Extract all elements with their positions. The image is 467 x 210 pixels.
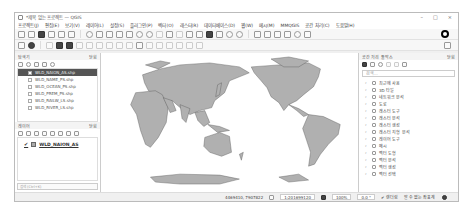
- refresh-browser-icon[interactable]: [26, 62, 31, 67]
- menu-project[interactable]: 프로젝트(J): [18, 22, 39, 28]
- add-selected-icon[interactable]: [18, 62, 23, 67]
- browser-panel-close[interactable]: 닫힘: [89, 54, 97, 60]
- filter-expression-icon[interactable]: [50, 131, 55, 136]
- filter-icon[interactable]: [34, 62, 39, 67]
- add-line-icon[interactable]: [46, 42, 53, 49]
- pan-to-selection-icon[interactable]: [96, 31, 103, 38]
- pan-hand-icon[interactable]: [86, 31, 93, 38]
- processing-item-vector-analysis[interactable]: ›벡터 분석: [359, 156, 458, 163]
- digitize-4-icon[interactable]: [116, 42, 123, 49]
- user-plugin-circle-icon[interactable]: [441, 30, 449, 38]
- zoom-in-icon[interactable]: [106, 31, 113, 38]
- open-attribute-table-icon[interactable]: [264, 31, 271, 38]
- processing-item-vector-creation[interactable]: ›벡터 생성: [359, 163, 458, 170]
- save-as-icon[interactable]: [48, 31, 55, 38]
- processing-item-recent[interactable]: ›최근에 사용: [359, 79, 458, 86]
- browser-item-wld-ocean-ps[interactable]: WLD_OCEAN_PS.shp: [18, 83, 97, 90]
- processing-item-vector-selection[interactable]: ›벡터 선택: [359, 170, 458, 177]
- add-group-icon[interactable]: [26, 131, 31, 136]
- menu-database[interactable]: 데이터베이스(D): [204, 22, 235, 28]
- processing-item-3d-tiles[interactable]: ›3D 타일: [359, 86, 458, 93]
- menu-settings[interactable]: 설정(S): [110, 22, 124, 28]
- zoom-next-icon[interactable]: [176, 31, 183, 38]
- panel-toggle-icon[interactable]: [444, 42, 451, 49]
- new-map-view-icon[interactable]: [186, 31, 193, 38]
- label-tool-icon[interactable]: [136, 42, 143, 49]
- new-project-icon[interactable]: [18, 31, 25, 38]
- add-point-icon[interactable]: [56, 42, 63, 49]
- bookmark-icon[interactable]: [206, 31, 213, 38]
- processing-item-layer-tools[interactable]: ›레이어 도구: [359, 135, 458, 142]
- locator-search-input[interactable]: 검색 (Ctrl+K): [17, 183, 98, 190]
- menu-layer[interactable]: 레이어(L): [86, 22, 104, 28]
- collapse-all-icon[interactable]: [42, 62, 47, 67]
- statistics-icon[interactable]: [304, 31, 311, 38]
- lock-scale-icon[interactable]: [321, 195, 326, 200]
- processing-item-vector-geometry[interactable]: ›벡터 도형: [359, 149, 458, 156]
- magnifier-spinbox[interactable]: 100%: [332, 194, 351, 200]
- map-canvas[interactable]: [101, 53, 358, 192]
- menu-raster[interactable]: 래스터(R): [180, 22, 199, 28]
- render-checkbox[interactable]: ✔ 렌더링: [381, 194, 398, 200]
- browser-item-wld-river-ls[interactable]: WLD_RIVER_LS.shp: [18, 104, 97, 111]
- processing-item-raster-creation[interactable]: ›래스터 생성: [359, 121, 458, 128]
- zoom-layer-icon[interactable]: [146, 31, 153, 38]
- menu-vector[interactable]: 벡터(O): [158, 22, 173, 28]
- messages-icon[interactable]: [442, 195, 447, 200]
- digitize-1-icon[interactable]: [86, 42, 93, 49]
- crs-button[interactable]: 알 수 없는 좌표계: [404, 194, 436, 200]
- properties-icon[interactable]: [50, 62, 55, 67]
- visibility-icon[interactable]: [34, 131, 39, 136]
- filter-legend-icon[interactable]: [42, 131, 47, 136]
- digitize-3-icon[interactable]: [106, 42, 113, 49]
- menu-web[interactable]: 웹(W): [241, 22, 253, 28]
- digitize-2-icon[interactable]: [96, 42, 103, 49]
- zoom-last-icon[interactable]: [156, 31, 163, 38]
- style-manager-icon[interactable]: [68, 31, 75, 38]
- select-features-icon[interactable]: [274, 31, 281, 38]
- processing-item-network-analysis[interactable]: ›네트워크 분석: [359, 93, 458, 100]
- menu-view[interactable]: 보기(V): [65, 22, 80, 28]
- rotation-spinbox[interactable]: 0.0 °: [357, 194, 375, 200]
- menu-processing[interactable]: 공간 처리(C): [305, 22, 329, 28]
- minimize-button[interactable]: –: [421, 14, 424, 20]
- processing-item-raster-terrain[interactable]: ›래스터 지형 분석: [359, 128, 458, 135]
- remove-layer-icon[interactable]: [74, 131, 79, 136]
- print-layout-icon[interactable]: [58, 31, 65, 38]
- identify-features-icon[interactable]: [254, 31, 261, 38]
- expand-all-icon[interactable]: [58, 131, 63, 136]
- close-button[interactable]: ×: [448, 14, 452, 20]
- browser-item-wld-railw-ls[interactable]: WLD_RAILW_LS.shp: [18, 97, 97, 104]
- maximize-button[interactable]: □: [433, 14, 438, 20]
- edit-line-icon[interactable]: [156, 42, 163, 49]
- open-project-icon[interactable]: [28, 31, 35, 38]
- zoom-native-icon[interactable]: [166, 31, 173, 38]
- layer-item-wld-naion-as[interactable]: ✔ WLD_NAION_AS: [18, 138, 97, 150]
- edit-pencil-icon[interactable]: [146, 42, 153, 49]
- results-viewer-icon[interactable]: [386, 62, 391, 67]
- edit-6-icon[interactable]: [176, 42, 183, 49]
- browser-item-wld-naion-as[interactable]: WLD_NAION_AS.shp: [18, 69, 97, 76]
- menu-mesh[interactable]: 메시(M): [259, 22, 274, 28]
- processing-panel-close[interactable]: 닫힘: [447, 54, 455, 60]
- digitize-5-icon[interactable]: [126, 42, 133, 49]
- zoom-selection-icon[interactable]: [136, 31, 143, 38]
- layers-panel-close[interactable]: 닫힘: [89, 123, 97, 129]
- edit-8-icon[interactable]: [196, 42, 203, 49]
- menu-edit[interactable]: 편집(E): [45, 22, 59, 28]
- models-icon[interactable]: [362, 62, 367, 67]
- edit-features-in-place-icon[interactable]: [394, 62, 399, 67]
- save-project-icon[interactable]: [38, 31, 45, 38]
- coordinate-display[interactable]: 4469410, 7907822: [225, 195, 263, 200]
- menu-help[interactable]: 도움말(H): [336, 22, 355, 28]
- collapse-all-layers-icon[interactable]: [66, 131, 71, 136]
- add-polygon-icon[interactable]: [66, 42, 73, 49]
- processing-options-icon[interactable]: [402, 62, 407, 67]
- menu-mmqgis[interactable]: MMQGIS: [281, 23, 300, 28]
- edit-box-icon[interactable]: [166, 42, 173, 49]
- browser-item-wld-name-ps[interactable]: WLD_NAME_PS.shp: [18, 76, 97, 83]
- temporal-controller-icon[interactable]: [226, 31, 233, 38]
- show-bookmarks-icon[interactable]: [216, 31, 223, 38]
- layer-visibility-checkbox[interactable]: ✔: [24, 141, 28, 147]
- deselect-icon[interactable]: [284, 31, 291, 38]
